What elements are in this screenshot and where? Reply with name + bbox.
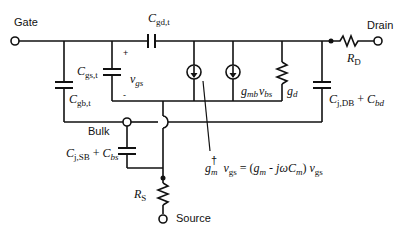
cgd-capacitor — [148, 34, 155, 48]
drain-label: Drain — [367, 19, 393, 31]
gd-resistor — [277, 41, 287, 101]
vgs-minus-sign: - — [123, 90, 126, 100]
dagger-mark: † — [211, 154, 217, 166]
cjsb-branch — [118, 126, 163, 168]
mosfet-small-signal-circuit: Gate Drain Bulk Source Cgd,t Cgs,t Cgb,t… — [0, 0, 402, 236]
gd-label: gd — [287, 84, 298, 99]
source-node-dot — [161, 176, 166, 181]
drain-terminal — [374, 37, 382, 45]
source-label: Source — [176, 212, 211, 224]
cjdb-branch — [168, 41, 331, 122]
bulk-terminal — [123, 118, 131, 126]
rd-label: RD — [346, 51, 361, 67]
cgd-label: Cgd,t — [148, 11, 170, 27]
gate-label: Gate — [14, 16, 38, 28]
gm-current-source — [187, 41, 201, 101]
rs-label: RS — [133, 187, 146, 203]
gmb-label: gmbvbs — [241, 84, 273, 99]
cgb-label: Cgb,t — [69, 92, 91, 108]
annotation-pointer — [203, 81, 210, 151]
rd-resistor — [331, 36, 374, 46]
source-wire — [163, 101, 168, 183]
gmb-current-source — [226, 41, 240, 101]
cgb-branch — [55, 41, 123, 122]
cjdb-label: Cj,DB + Cbd — [329, 92, 385, 108]
source-terminal — [159, 215, 167, 223]
rs-resistor — [158, 183, 168, 214]
cjsb-label: Cj,SB + Cbs — [66, 146, 119, 162]
gate-terminal — [11, 37, 19, 45]
cgs-label: Cgs,t — [77, 64, 98, 80]
vgs-plus-sign: + — [123, 48, 128, 58]
bulk-label: Bulk — [88, 125, 110, 137]
gm-equation: gmvgs = (gm - jωCm) vgs — [205, 161, 323, 177]
vgs-label: vgs — [130, 72, 144, 88]
